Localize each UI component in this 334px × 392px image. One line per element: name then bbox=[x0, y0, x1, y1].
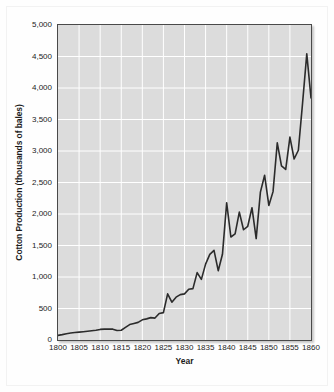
y-tick-label: 4,500 bbox=[12, 53, 52, 61]
chart-canvas bbox=[58, 25, 311, 340]
y-tick-label: 4,000 bbox=[12, 84, 52, 92]
x-axis-tick-labels: 1800180518101815182018251830183518401845… bbox=[0, 343, 334, 357]
y-tick-label: 2,000 bbox=[12, 210, 52, 218]
y-tick-label: 5,000 bbox=[12, 21, 52, 29]
y-tick-label: 2,500 bbox=[12, 179, 52, 187]
chart-figure: Cotton Production (thousands of bales) 0… bbox=[0, 0, 334, 392]
y-tick-label: 3,000 bbox=[12, 147, 52, 155]
x-axis-title: Year bbox=[57, 356, 312, 366]
x-tick-label: 1860 bbox=[291, 343, 331, 352]
y-tick-label: 500 bbox=[12, 305, 52, 313]
y-tick-label: 1,500 bbox=[12, 242, 52, 250]
y-tick-label: 1,000 bbox=[12, 273, 52, 281]
y-tick-label: 3,500 bbox=[12, 116, 52, 124]
y-axis-tick-labels: 05001,0001,5002,0002,5003,0003,5004,0004… bbox=[0, 0, 57, 392]
plot-area bbox=[57, 24, 312, 341]
